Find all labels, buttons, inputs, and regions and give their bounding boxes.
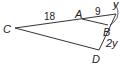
segment-c-d xyxy=(15,28,99,50)
segment-label-bd: 2y xyxy=(105,37,119,49)
point-label-d: D xyxy=(92,53,100,65)
point-label-a: A xyxy=(74,8,82,20)
geometry-diagram: C A B D 18 9 y 2y xyxy=(0,0,120,69)
segment-label-ca: 18 xyxy=(44,11,56,22)
point-label-c: C xyxy=(3,23,11,35)
segment-a-b xyxy=(82,19,108,25)
segment-label-apex-b: y xyxy=(112,0,120,10)
segment-c-apex xyxy=(15,14,116,28)
segment-label-a-apex: 9 xyxy=(95,6,101,17)
